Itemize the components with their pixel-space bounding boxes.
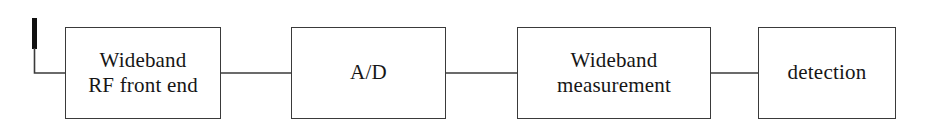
block-rf-front-end-label-line1: Wideband: [99, 49, 186, 73]
block-diagram: Wideband RF front end A/D Wideband measu…: [0, 0, 928, 132]
block-rf-front-end-label-line2: RF front end: [88, 74, 198, 98]
block-wideband-measurement-label-line2: measurement: [557, 74, 671, 98]
block-rf-front-end: Wideband RF front end: [65, 27, 221, 119]
block-detection-label-line1: detection: [788, 61, 867, 85]
block-ad: A/D: [291, 27, 446, 119]
block-detection: detection: [758, 27, 896, 119]
block-wideband-measurement-label-line1: Wideband: [570, 49, 657, 73]
antenna-icon: [32, 18, 37, 49]
connector-antenna-to-rf-front-end: [35, 48, 66, 73]
block-wideband-measurement: Wideband measurement: [517, 27, 711, 119]
block-ad-label-line1: A/D: [350, 61, 387, 85]
